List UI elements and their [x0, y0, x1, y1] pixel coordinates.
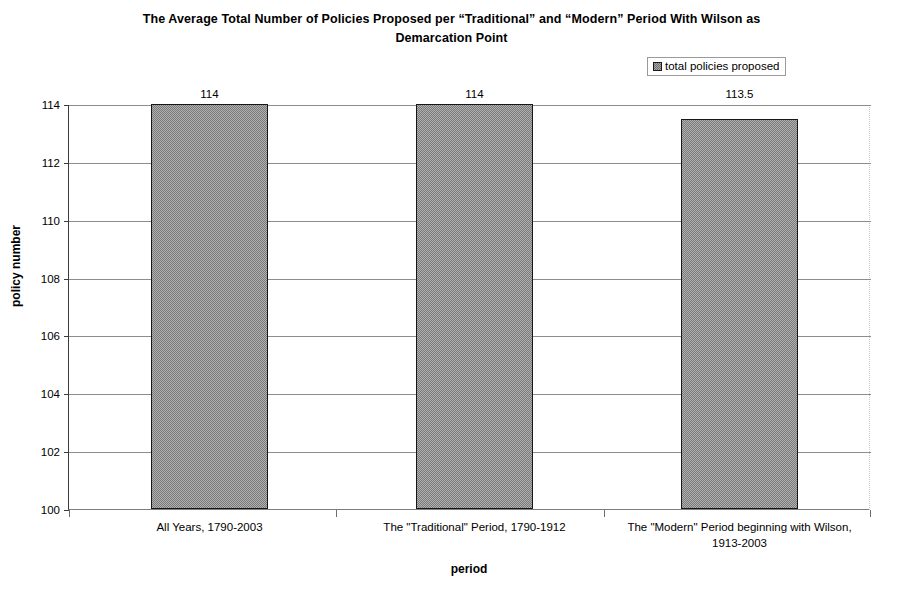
- y-tick-mark: [64, 394, 69, 395]
- y-tick-label: 102: [41, 446, 60, 458]
- x-category-line: 1913-2003: [712, 537, 767, 549]
- x-category-line: The "Modern" Period beginning with Wilso…: [627, 521, 851, 533]
- plot-frame-right: [869, 105, 870, 510]
- x-tick-mark: [69, 510, 70, 517]
- y-tick-mark: [64, 163, 69, 164]
- bar-value-label-modern-period: 113.5: [726, 88, 754, 101]
- y-tick-label: 112: [42, 157, 60, 169]
- chart-title: The Average Total Number of Policies Pro…: [60, 10, 843, 48]
- y-tick-label: 104: [41, 388, 60, 400]
- x-category-line: The "Traditional" Period, 1790-1912: [383, 521, 565, 533]
- x-category-label-all-years: All Years, 1790-2003: [85, 519, 335, 535]
- bar-all-years[interactable]: [151, 104, 268, 509]
- chart-title-line-1: The Average Total Number of Policies Pro…: [60, 10, 843, 29]
- y-tick-label: 100: [41, 504, 60, 516]
- y-tick-label: 110: [42, 215, 60, 227]
- y-tick-label: 106: [41, 330, 60, 342]
- legend-swatch-total-policies-proposed: [653, 62, 662, 71]
- y-tick-mark: [64, 336, 69, 337]
- y-tick-label: 108: [41, 273, 60, 285]
- bar-traditional-period[interactable]: [416, 104, 533, 509]
- bar-value-label-traditional-period: 114: [465, 88, 483, 101]
- y-axis-title: policy number: [9, 225, 23, 307]
- x-tick-mark: [870, 510, 871, 517]
- chart-legend: total policies proposed: [647, 57, 786, 76]
- y-tick-mark: [64, 221, 69, 222]
- bar-value-label-all-years: 114: [200, 88, 218, 101]
- x-category-label-modern-period: The "Modern" Period beginning with Wilso…: [615, 519, 865, 551]
- legend-label-total-policies-proposed: total policies proposed: [665, 60, 779, 73]
- plot-area: 100 102 104 106 108 110: [68, 105, 870, 510]
- y-tick-mark: [64, 452, 69, 453]
- x-axis-title: period: [68, 562, 870, 576]
- x-category-line: All Years, 1790-2003: [156, 521, 262, 533]
- y-tick-mark: [64, 279, 69, 280]
- y-tick-label: 114: [42, 99, 60, 111]
- chart-title-line-2: Demarcation Point: [60, 29, 843, 48]
- x-category-label-traditional-period: The "Traditional" Period, 1790-1912: [350, 519, 600, 535]
- plot-area-wrapper: 100 102 104 106 108 110: [68, 105, 870, 510]
- y-tick-mark: [64, 105, 69, 106]
- x-tick-mark: [336, 510, 337, 517]
- x-tick-mark: [604, 510, 605, 517]
- bar-modern-period[interactable]: [681, 119, 798, 510]
